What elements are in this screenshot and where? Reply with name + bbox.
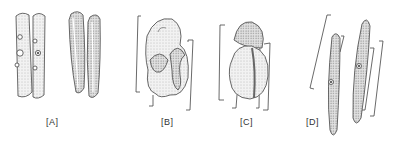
- diatom-illustration: [0, 0, 394, 144]
- panel-label-d: [D]: [306, 117, 319, 127]
- panel-c-cell: [219, 22, 270, 110]
- panel-b-cell: [136, 16, 193, 110]
- panel-d-cells: [310, 15, 383, 135]
- panel-a-cells: [15, 12, 100, 98]
- panel-label-a: [A]: [46, 117, 59, 127]
- panel-label-b: [B]: [161, 117, 174, 127]
- panel-label-c: [C]: [240, 117, 253, 127]
